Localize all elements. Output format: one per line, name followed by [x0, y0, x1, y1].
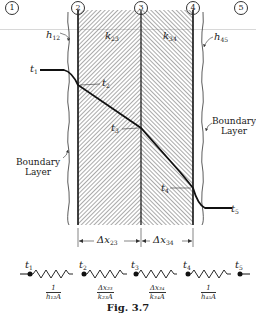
dx23-label: Δx23 [97, 235, 118, 248]
resistance-23-label: Δx₂₃k₂₃A [97, 284, 114, 301]
node-1-marker: 1 [5, 1, 19, 15]
network-t3-label: t3 [131, 260, 139, 273]
boundary-layer-left-label: Boundary Layer [16, 157, 60, 177]
t3-label: t3 [111, 123, 119, 136]
network-t5-label: t5 [235, 260, 243, 273]
t1-label: t1 [30, 64, 38, 77]
resistance-34-label: Δx₃₄k₃₄A [149, 284, 166, 301]
dx34-label: Δx34 [153, 235, 174, 248]
t5-label: t5 [231, 204, 239, 217]
node-2-marker: 2 [71, 1, 85, 15]
boundary-layer-left-line [68, 12, 70, 225]
network-t1-label: t1 [25, 260, 33, 273]
t4-label: t4 [161, 183, 169, 196]
figure-caption: Fig. 3.7 [0, 302, 256, 313]
h45-label: h45 [214, 32, 228, 45]
boundary-layer-right-line [202, 12, 204, 225]
k23-label: k23 [105, 31, 119, 44]
node-4-marker: 4 [186, 1, 200, 15]
network-t2-label: t2 [79, 260, 87, 273]
k34-label: k34 [163, 31, 177, 44]
resistance-45-label: 1h₄₅A [201, 284, 216, 301]
h12-label: h12 [46, 30, 60, 43]
t2-label: t2 [102, 78, 110, 91]
node-5-marker: 5 [234, 1, 248, 15]
boundary-layer-right-label: Boundary Layer [212, 116, 256, 136]
node-3-marker: 3 [134, 1, 148, 15]
network-t4-label: t4 [183, 260, 191, 273]
resistance-12-label: 1h₁₂A [46, 284, 61, 301]
composite-wall-figure: 1 2 3 4 5 h12 k23 k34 h45 t1 t2 t3 t4 t5… [0, 0, 256, 319]
